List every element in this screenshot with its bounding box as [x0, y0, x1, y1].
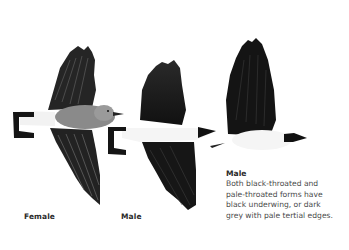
female-bird — [13, 46, 124, 205]
male-bird-middle — [108, 60, 225, 210]
caption-title: Male — [226, 169, 349, 179]
caption-line: pale-throated forms have — [226, 190, 349, 200]
caption-line: black underwing, or dark — [226, 200, 349, 210]
label-male: Male — [121, 212, 142, 221]
caption-line: Both black-throated and — [226, 179, 349, 189]
caption-line: grey with pale tertial edges. — [226, 211, 349, 221]
caption-male: Male Both black-throated and pale-throat… — [226, 169, 349, 221]
male-bird-right — [226, 38, 307, 150]
label-female: Female — [24, 212, 55, 221]
